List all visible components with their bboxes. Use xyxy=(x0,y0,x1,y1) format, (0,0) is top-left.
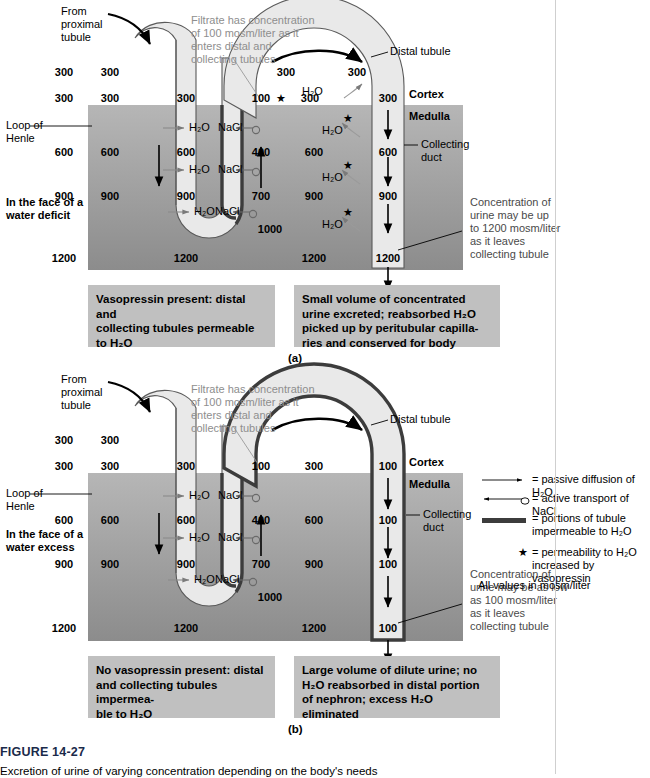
duct-value: 1200 xyxy=(376,253,400,264)
distal-tubule-value: 300 xyxy=(277,67,295,78)
interstitial-value: 300 xyxy=(55,435,73,446)
ascending-limb-value: 400 xyxy=(252,147,270,158)
star-icon: ★ xyxy=(343,113,353,124)
loop-interstitial-value: 900 xyxy=(177,559,195,570)
interstitial-value: 900 xyxy=(55,559,73,570)
descending-limb-value: 600 xyxy=(101,515,119,526)
interstitial-value: 1200 xyxy=(52,623,76,634)
loop-interstitial-value: 300 xyxy=(177,93,195,104)
nacl-label: NaCl xyxy=(215,573,239,586)
cortex-label-b: Cortex xyxy=(409,456,444,469)
loop-interstitial-value: 300 xyxy=(177,461,195,472)
duct-value: 900 xyxy=(379,191,397,202)
cortex-label-a: Cortex xyxy=(409,88,444,101)
duct-value: 100 xyxy=(379,623,397,634)
h2o-label: H₂O xyxy=(194,573,215,586)
duct-interstitial-value: 600 xyxy=(305,515,323,526)
interstitial-value: 600 xyxy=(55,515,73,526)
collecting-duct-label-b: Collecting duct xyxy=(423,508,471,533)
h2o-label: H₂O xyxy=(194,205,215,218)
star-icon: ★ xyxy=(518,547,528,558)
duct-value: 100 xyxy=(379,461,397,472)
duct-interstitial-value: 300 xyxy=(305,461,323,472)
h2o-label: H₂O xyxy=(322,124,343,137)
descending-limb-value: 300 xyxy=(101,93,119,104)
h2o-label: H₂O xyxy=(189,531,210,544)
star-icon: ★ xyxy=(276,93,286,104)
descending-limb-value: 300 xyxy=(101,461,119,472)
loop-interstitial-value: 600 xyxy=(177,515,195,526)
loop-of-henle-label-b: Loop of Henle xyxy=(6,487,43,512)
ascending-limb-value: 400 xyxy=(252,515,270,526)
h2o-label: H₂O xyxy=(302,85,323,98)
h2o-label: H₂O xyxy=(322,218,343,231)
descending-limb-value: 300 xyxy=(101,435,119,446)
star-icon: ★ xyxy=(343,207,353,218)
duct-value: 300 xyxy=(379,93,397,104)
h2o-label: H₂O xyxy=(189,163,210,176)
nacl-label: NaCl xyxy=(218,531,242,544)
h2o-label: H₂O xyxy=(189,121,210,134)
from-proximal-tubule-label-a: From proximal tubule xyxy=(61,5,103,44)
ascending-limb-value: 100 xyxy=(252,461,270,472)
caption-box-left-b: No vasopressin present: distal and colle… xyxy=(88,656,275,718)
filtrate-note-b: Filtrate has concentration of 100 mosm/l… xyxy=(191,383,315,435)
legend-footer: All values in mosm/liter xyxy=(478,579,590,592)
from-proximal-tubule-label-b: From proximal tubule xyxy=(61,373,103,412)
h2o-label: H₂O xyxy=(189,489,210,502)
panel-water-deficit: In the face of a water deficit From prox… xyxy=(0,0,650,370)
panel-letter-a: (a) xyxy=(288,352,302,364)
caption-box-left-a: Vasopressin present: distal and collecti… xyxy=(88,285,275,347)
caption-box-right-b: Large volume of dilute urine; no H₂O rea… xyxy=(294,656,500,718)
descending-limb-value: 300 xyxy=(101,67,119,78)
urine-concentration-note-a: Concentration of urine may be up to 1200… xyxy=(470,196,560,261)
collecting-duct-label-a: Collecting duct xyxy=(421,138,469,163)
legend-item-text: = portions of tubule impermeable to H₂O xyxy=(532,512,632,538)
interstitial-value: 900 xyxy=(55,191,73,202)
figure-number: FIGURE 14-27 xyxy=(0,745,85,759)
duct-interstitial-value: 1200 xyxy=(302,253,326,264)
page-bleed-line xyxy=(555,0,556,774)
loop-interstitial-value: 1200 xyxy=(174,623,198,634)
medulla-label-b: Medulla xyxy=(409,478,450,491)
descending-limb-value: 900 xyxy=(101,191,119,202)
duct-interstitial-value: 600 xyxy=(305,147,323,158)
duct-interstitial-value: 900 xyxy=(305,559,323,570)
ascending-limb-value: 700 xyxy=(252,191,270,202)
condition-label-b: In the face of a water excess xyxy=(6,528,83,553)
distal-tubule-label-b: Distal tubule xyxy=(390,413,451,426)
duct-value: 600 xyxy=(379,147,397,158)
interstitial-value: 300 xyxy=(55,93,73,104)
distal-tubule-value: 300 xyxy=(348,67,366,78)
panel-letter-b: (b) xyxy=(288,723,303,735)
loop-interstitial-value: 900 xyxy=(177,191,195,202)
duct-interstitial-value: 1200 xyxy=(302,623,326,634)
loop-interstitial-value: 600 xyxy=(177,147,195,158)
nacl-label: NaCl xyxy=(218,121,242,134)
medulla-label-a: Medulla xyxy=(409,110,450,123)
loop-of-henle-label-a: Loop of Henle xyxy=(6,119,43,144)
duct-interstitial-value: 900 xyxy=(305,191,323,202)
nacl-label: NaCl xyxy=(215,205,239,218)
star-icon: ★ xyxy=(343,160,353,171)
interstitial-value: 600 xyxy=(55,147,73,158)
ascending-limb-value: 1000 xyxy=(258,592,282,603)
descending-limb-value: 600 xyxy=(101,147,119,158)
ascending-limb-value: 1000 xyxy=(258,224,282,235)
duct-value: 100 xyxy=(379,515,397,526)
nacl-label: NaCl xyxy=(218,489,242,502)
interstitial-value: 300 xyxy=(55,67,73,78)
descending-limb-value: 900 xyxy=(101,559,119,570)
nacl-label: NaCl xyxy=(218,163,242,176)
caption-box-right-a: Small volume of concentrated urine excre… xyxy=(294,285,500,347)
ascending-limb-value: 100 xyxy=(252,93,270,104)
figure-caption: Excretion of urine of varying concentrat… xyxy=(0,764,377,778)
medulla-region xyxy=(88,105,463,270)
arrow-left-with-circle-icon xyxy=(484,498,529,504)
loop-interstitial-value: 1200 xyxy=(174,253,198,264)
medulla-region xyxy=(88,473,463,641)
thick-bar-icon xyxy=(482,518,526,523)
h2o-label: H₂O xyxy=(322,171,343,184)
ascending-limb-value: 700 xyxy=(252,559,270,570)
interstitial-value: 300 xyxy=(55,461,73,472)
